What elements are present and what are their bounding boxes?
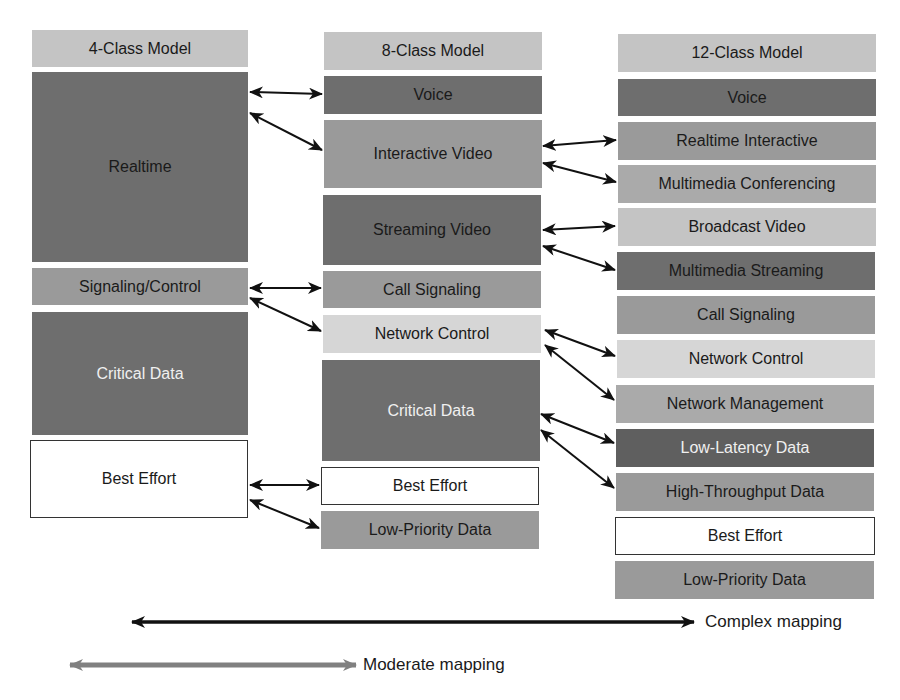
arrow-signaling-network-control [250,298,321,331]
arrow-netctl-network-control [545,330,615,356]
class-box-best-effort: Best Effort [321,467,539,505]
class-box-network-control: Network Control [617,340,875,378]
class-box-call-signaling: Call Signaling [323,271,541,308]
arrow-realtime-voice [250,92,322,94]
arrow-interactive-realtime-interactive [543,140,616,146]
column-header-8-class: 8-Class Model [324,32,542,70]
class-box-realtime: Realtime [32,72,248,262]
class-box-low-priority-data: Low-Priority Data [615,561,874,599]
arrow-netctl-network-management [545,345,614,400]
class-box-best-effort: Best Effort [30,440,248,518]
class-box-streaming-video: Streaming Video [323,195,541,265]
arrow-streaming-multimedia-streaming [543,246,615,270]
arrow-streaming-broadcast-video [543,226,615,230]
class-box-best-effort: Best Effort [615,517,875,555]
class-box-call-signaling: Call Signaling [617,296,875,334]
column-header-12-class: 12-Class Model [618,34,876,72]
arrow-critical-high-throughput [541,430,614,488]
class-box-realtime-interactive: Realtime Interactive [618,122,876,160]
class-box-multimedia-streaming: Multimedia Streaming [617,252,875,290]
class-box-multimedia-conferencing: Multimedia Conferencing [618,165,876,203]
class-box-low-priority-data: Low-Priority Data [321,511,539,549]
class-box-low-latency-data: Low-Latency Data [616,429,874,467]
class-box-signaling-control: Signaling/Control [32,268,248,305]
class-box-critical-data: Critical Data [32,312,248,435]
arrow-best-effort-low-priority [250,500,319,528]
arrow-realtime-interactive-video [250,113,322,150]
arrow-critical-low-latency [541,414,614,443]
arrow-interactive-multimedia-conferencing [543,163,616,182]
legend-moderate-label: Moderate mapping [363,655,505,675]
class-box-network-control: Network Control [323,315,541,353]
class-box-interactive-video: Interactive Video [324,120,542,188]
column-header-4-class: 4-Class Model [32,30,248,67]
class-box-high-throughput-data: High-Throughput Data [616,473,874,511]
class-box-voice: Voice [324,76,542,114]
legend-complex-label: Complex mapping [705,612,842,632]
class-box-broadcast-video: Broadcast Video [618,208,876,246]
class-box-critical-data: Critical Data [322,360,540,461]
class-box-network-management: Network Management [616,385,874,423]
class-box-voice: Voice [618,79,876,116]
